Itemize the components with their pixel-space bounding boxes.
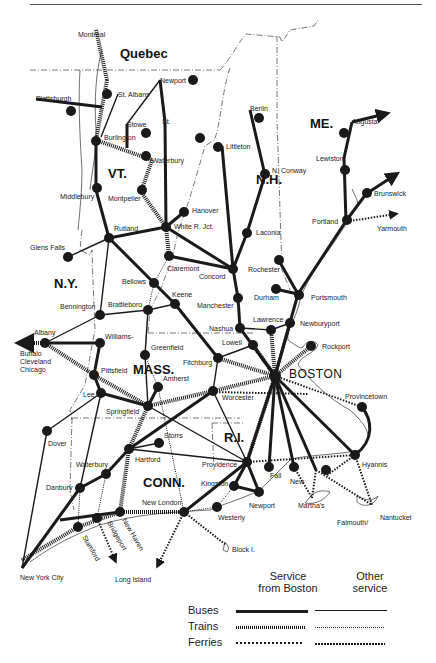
city-bellows-falls: Bellows [122,278,147,285]
city-fall-river: Fall [270,472,282,479]
legend-label-ferries: Ferries [188,636,222,648]
new-england-transit-map: Quebec VT. N.H. ME. N.Y. MASS. R.I. CONN… [0,0,436,663]
legend-label-buses: Buses [188,604,219,616]
legend-swatch-boston-bus [236,610,308,613]
region-quebec: Quebec [120,46,168,61]
city-springfield: Springfield [106,408,139,416]
city-rochester: Rochester [248,266,281,273]
city-stowe: Stowe [127,121,147,128]
city-hartford: Hartford [135,456,160,463]
city-pittsfield: Pittsfield [101,367,128,374]
city-worcester: Worcester [222,394,254,401]
city-portsmouth: Portsmouth [311,294,347,301]
legend-swatch-other-ferry [315,643,385,645]
legend: Service from Boston Other service Buses … [0,570,436,663]
city-kingston: Kingston [201,480,228,488]
city-manchester: Manchester [197,302,234,309]
city-newport-ri: Newport [249,502,275,510]
city-new-london: New London [142,499,181,506]
city-st-johnsbury: St. [162,118,171,125]
city-yarmouth: Yarmouth [377,225,407,232]
city-dover-plains: Dover [48,440,67,447]
city-williamstown: Williams- [105,333,134,340]
region-ri: R.I. [224,430,244,445]
city-albany: Albany [34,329,56,337]
city-newburyport: Newburyport [300,320,340,328]
city-white-r-jct: White R. Jct. [174,223,214,230]
city-glens-falls: Glens Falls [30,244,66,251]
city-littleton: Littleton [226,143,251,150]
legend-col1-line2: from Boston [238,582,338,594]
legend-col2-line1: Other [335,570,405,582]
ferry-routes [97,214,395,565]
city-claremont: Claremont [167,265,199,272]
city-keene: Keene [172,291,192,298]
legend-row-trains: Trains [188,620,218,632]
city-amherst: Amherst [163,375,189,382]
city-concord: Concord [199,273,226,280]
city-lowell: Lowell [222,339,242,346]
city-storrs: Storrs [164,432,183,439]
map-labels: Quebec VT. N.H. ME. N.Y. MASS. R.I. CONN… [20,31,412,584]
legend-row-buses: Buses [188,604,219,616]
city-stamford: Stamford [81,534,101,562]
city-st-albans: St. Albans [118,91,150,98]
city-greenfield: Greenfield [151,344,183,351]
city-middlebury: Middlebury [60,193,95,201]
city-augusta: Augusta [352,118,378,126]
region-nh: N.H. [256,172,282,187]
city-lawrence: Lawrence [253,316,283,323]
legend-swatch-boston-ferry [236,642,304,644]
city-providence: Providence [202,461,237,468]
legend-col2-line2: service [335,582,405,594]
city-burlington: Burlington [104,134,136,142]
city-buffalo: Buffalo [20,350,42,357]
city-rutland: Rutland [114,225,138,232]
city-block-island: Block I. [232,546,255,553]
legend-swatch-other-train [315,627,385,628]
city-danbury: Danbury [46,484,73,492]
city-chicago: Chicago [20,366,46,374]
city-westerly: Westerly [218,514,246,522]
city-nantucket: Nantucket [380,514,412,521]
city-hanover: Hanover [192,207,219,214]
city-plattsburgh: Plattsburgh [36,95,72,103]
legend-swatch-other-bus [315,610,387,611]
legend-col1-line1: Service [238,570,338,582]
legend-col-boston: Service from Boston [238,570,338,594]
city-montreal: Montreal [78,31,106,38]
legend-col-other: Other service [335,570,405,594]
legend-row-ferries: Ferries [188,636,222,648]
region-ny: N.Y. [54,276,78,291]
city-waterbury-vt: Waterbury [152,157,185,165]
city-cleveland: Cleveland [20,358,51,365]
city-montpelier: Montpelier [108,195,141,203]
legend-label-trains: Trains [188,620,218,632]
city-lewiston: Lewiston [316,155,344,162]
region-vt: VT. [108,166,127,181]
city-lee: Lee [83,391,95,398]
hub-boston: BOSTON [289,367,342,381]
city-rockport: Rockport [322,343,350,351]
city-durham: Durham [254,294,279,301]
city-nashua: Nashua [209,325,233,332]
city-berlin: Berlin [250,105,268,112]
city-fitchburg: Fitchburg [183,359,212,367]
city-laconia: Laconia [256,229,281,236]
city-bennington: Bennington [60,303,96,311]
city-provincetown: Provincetown [345,393,387,400]
city-brattleboro: Brattleboro [108,301,142,308]
city-brunswick: Brunswick [374,190,406,197]
region-me: ME. [310,116,333,131]
city-hyannis: Hyannis [362,461,388,469]
city-new-bedford: New [290,478,305,485]
region-conn: CONN. [143,475,185,490]
city-waterbury-ct: Waterbury [76,461,109,469]
city-falmouth: Falmouth/ [337,519,368,526]
city-n-conway: N. Conway [272,167,307,175]
legend-swatch-boston-train [236,626,306,629]
city-portland: Portland [312,218,338,225]
city-marthas-vineyard: Martha's [298,502,325,509]
city-newport-vt: Newport [160,77,186,85]
